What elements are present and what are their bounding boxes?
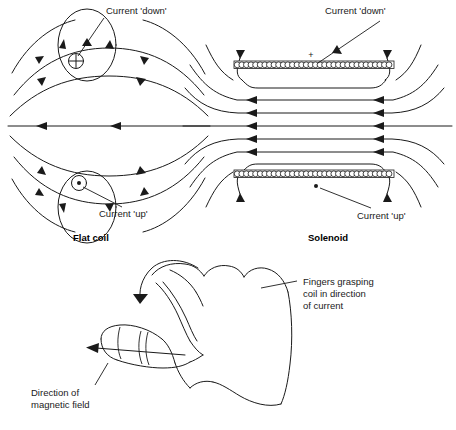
flat-coil-panel: Current 'down' Current 'up' Flat coil [8,5,210,243]
hand-label-field-line1: Direction of [31,387,79,398]
solenoid-panel: + [183,5,452,243]
solenoid-top-leader-line [318,21,380,63]
hand-outline [101,263,292,405]
solenoid-upper-windings [234,62,392,68]
solenoid-field-lines-upper [185,45,444,113]
flat-coil-caption: Flat coil [73,232,109,243]
solenoid-current-into-page-symbol: + [308,50,313,60]
hand-label-fingers-line3: of current [303,300,343,311]
hand-label-fingers-line2: coil in direction [303,288,366,299]
flat-coil-current-out-of-page-symbol [72,176,87,191]
solenoid-label-current-down: Current 'down' [325,5,386,16]
fingers-leader-line [261,281,297,288]
hand-label-fingers-line1: Fingers grasping [303,276,374,287]
flat-coil-label-current-down: Current 'down' [106,5,167,16]
field-leader-line [95,363,108,385]
hand-panel: Fingers grasping coil in direction of cu… [31,261,374,411]
solenoid-lower-windings [234,171,392,177]
flat-coil-top-leader-line [78,18,104,56]
hand-label-field-line2: magnetic field [31,399,90,410]
solenoid-upper-coil [234,58,394,88]
flat-coil-label-current-up: Current 'up' [99,208,148,219]
solenoid-caption: Solenoid [308,232,348,243]
solenoid-label-current-up: Current 'up' [357,210,406,221]
physics-figure: Current 'down' Current 'up' Flat coil [0,0,456,430]
thumb-segment-lines [118,327,149,365]
solenoid-lower-coil [234,164,394,194]
solenoid-current-out-of-page-symbol [314,184,318,188]
flat-coil-current-into-page-symbol [69,54,84,69]
solenoid-bottom-leader-line [320,188,371,208]
